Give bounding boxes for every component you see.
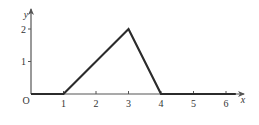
x-tick-label: 5 <box>191 98 196 109</box>
y-tick-label: 1 <box>21 56 26 67</box>
x-tick-label: 2 <box>94 98 99 109</box>
y-axis-label: y <box>23 9 29 20</box>
x-tick-label: 4 <box>159 98 164 109</box>
chart: 1 2 3 4 5 6 1 2 O x y <box>0 0 259 125</box>
y-tick-label: 2 <box>21 24 26 35</box>
origin-label: O <box>22 95 29 106</box>
x-tick-label: 1 <box>61 98 66 109</box>
x-tick-label: 3 <box>126 98 131 109</box>
x-axis-label: x <box>240 94 246 105</box>
x-tick-label: 6 <box>224 98 229 109</box>
series-line <box>31 29 236 94</box>
